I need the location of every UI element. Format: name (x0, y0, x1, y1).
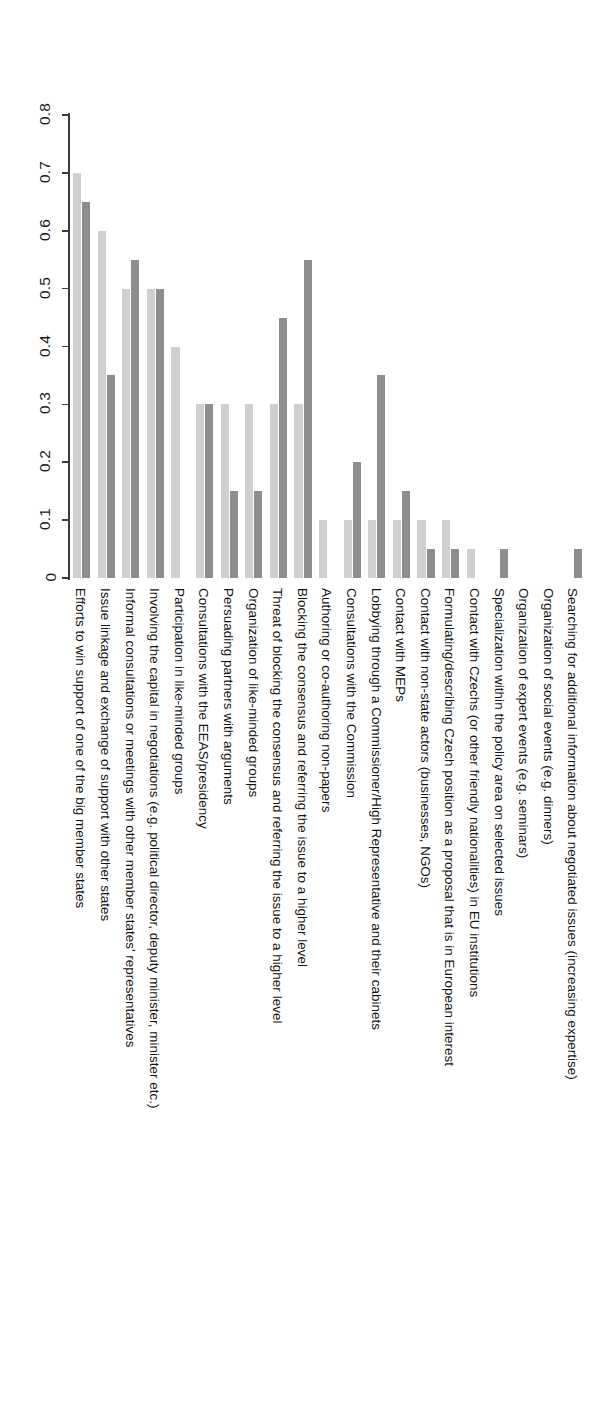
axis-tick-label: 0.7 (0, 163, 56, 181)
bar-series-dark (82, 202, 90, 578)
axis-tick-label: 0.1 (0, 510, 56, 528)
bar-series-light (294, 404, 302, 578)
axis-tick (62, 404, 68, 406)
axis-tick-label: 0.2 (0, 452, 56, 470)
bar-series-light (221, 404, 229, 578)
bar-series-light (467, 549, 475, 578)
category-label: Contact with MEPs (393, 588, 408, 702)
category-label: Specialization within the policy area on… (492, 588, 507, 916)
bar-series-light (393, 520, 401, 578)
category-label: Persuading partners with arguments (221, 588, 236, 805)
bar-series-light (245, 404, 253, 578)
bar-series-dark (230, 491, 238, 578)
bar-series-dark (353, 462, 361, 578)
axis-tick-label: 0.6 (0, 221, 56, 239)
bar-series-light (196, 404, 204, 578)
category-label: Organization of like-minded groups (246, 588, 261, 797)
bar-series-dark (205, 404, 213, 578)
category-label: Contact with Czechs (or other friendly n… (467, 588, 482, 997)
bar-series-light (122, 289, 130, 578)
bar-series-light (270, 404, 278, 578)
axis-tick (62, 172, 68, 174)
bar-series-dark (574, 549, 582, 578)
axis-tick (62, 230, 68, 232)
category-label: Organization of social events (e.g. dinn… (541, 588, 556, 845)
bar-series-dark (279, 318, 287, 578)
bar-series-light (171, 347, 179, 579)
axis-tick-label: 0 (0, 568, 56, 586)
bar-series-light (417, 520, 425, 578)
value-axis-line (68, 113, 70, 580)
category-label: Lobbying through a Commissioner/High Rep… (369, 588, 384, 1030)
axis-tick-label: 0.8 (0, 105, 56, 123)
axis-tick-label: 0.4 (0, 337, 56, 355)
category-label: Searching for additional information abo… (565, 588, 580, 1080)
category-label: Informal consultations or meetings with … (123, 588, 138, 1048)
axis-tick (62, 577, 68, 579)
category-label: Authoring or co-authoring non-papers (319, 588, 334, 812)
category-label: Threat of blocking the consensus and ref… (270, 588, 285, 1023)
bar-series-dark (254, 491, 262, 578)
bar-series-light (73, 173, 81, 578)
bar-series-light (442, 520, 450, 578)
axis-tick (62, 519, 68, 521)
bar-series-dark (402, 491, 410, 578)
axis-tick (62, 288, 68, 290)
category-label: Blocking the consensus and referring the… (295, 588, 310, 967)
bar-series-dark (377, 375, 385, 578)
bar-series-light (344, 520, 352, 578)
axis-tick-label: 0.5 (0, 279, 56, 297)
bar-chart-figure: 00.10.20.30.40.50.60.70.8 Efforts to win… (0, 0, 598, 1420)
category-label: Consultations with the Commission (344, 588, 359, 798)
category-label: Involving the capital in negotiations (e… (147, 588, 162, 1109)
axis-tick (62, 346, 68, 348)
category-label: Contact with non-state actors (businesse… (418, 588, 433, 888)
category-label: Formulating/describing Czech position as… (442, 588, 457, 1066)
bar-series-light (147, 289, 155, 578)
axis-tick (62, 461, 68, 463)
bar-series-light (98, 231, 106, 578)
category-label: Issue linkage and exchange of support wi… (98, 588, 113, 921)
category-label: Participation in like-minded groups (172, 588, 187, 794)
bar-series-dark (451, 549, 459, 578)
axis-tick-label: 0.3 (0, 394, 56, 412)
category-label: Efforts to win support of one of the big… (73, 588, 88, 908)
bar-series-dark (427, 549, 435, 578)
category-label: Organization of expert events (e.g. semi… (516, 588, 531, 858)
axis-tick (62, 114, 68, 116)
bar-series-dark (131, 260, 139, 578)
bar-series-light (319, 520, 327, 578)
bar-series-dark (107, 375, 115, 578)
bar-series-dark (304, 260, 312, 578)
bar-series-light (368, 520, 376, 578)
category-label: Consultations with the EEAS/presidency (196, 588, 211, 829)
bar-series-dark (156, 289, 164, 578)
bar-series-dark (500, 549, 508, 578)
